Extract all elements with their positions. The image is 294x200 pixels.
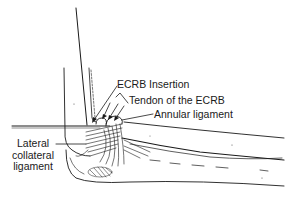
label-ecrb-insertion: ECRB Insertion	[117, 79, 189, 91]
upper-arm-outline	[64, 8, 96, 156]
elbow-anatomy-diagram: ECRB Insertion Tendon of the ECRB Annula…	[0, 0, 294, 200]
label-lateral-collateral-ligament: Lateral collateral ligament	[12, 138, 54, 173]
ecrb-insertion-leader	[94, 86, 117, 120]
forearm-outline	[66, 122, 284, 186]
label-annular-ligament: Annular ligament	[154, 109, 233, 121]
hatched-patch	[88, 167, 112, 177]
label-line: Lateral	[12, 138, 54, 150]
ligament-fibers	[76, 124, 150, 166]
tendon-bracket	[116, 93, 128, 103]
label-tendon-ecrb: Tendon of the ECRB	[129, 95, 225, 107]
label-line: ligament	[12, 161, 54, 173]
annular-ligament-leader	[122, 114, 153, 120]
